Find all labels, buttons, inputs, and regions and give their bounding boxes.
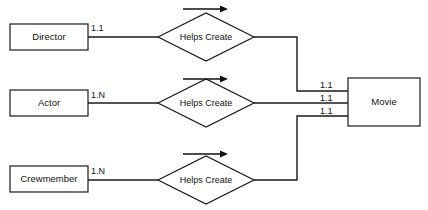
er-diagram-svg: Director Actor Crewmember Movie Helps Cr… [0, 0, 428, 210]
arrow-right-icon [220, 75, 228, 82]
entity-director-label: Director [32, 31, 65, 42]
cardinality-movie-top: 1.1 [320, 80, 333, 90]
cardinality-movie-middle: 1.1 [320, 93, 333, 103]
entity-actor-label: Actor [38, 97, 60, 108]
arrow-right-icon [220, 5, 228, 12]
connector-relationship-director-to-movie [254, 37, 348, 91]
relationship-helps-create-director[interactable]: Helps Create [158, 13, 254, 61]
entity-movie-label: Movie [371, 96, 396, 107]
entity-director[interactable]: Director [10, 24, 88, 50]
relationship-helps-create-director-label: Helps Create [180, 32, 233, 42]
relationship-helps-create-crewmember-label: Helps Create [180, 175, 233, 185]
entity-crewmember[interactable]: Crewmember [10, 166, 88, 192]
entity-crewmember-label: Crewmember [20, 173, 77, 184]
direction-arrow-director [183, 5, 228, 12]
arrow-right-icon [220, 150, 228, 157]
cardinality-actor-left: 1.N [91, 90, 105, 100]
relationship-helps-create-actor[interactable]: Helps Create [158, 79, 254, 127]
er-diagram-canvas: Director Actor Crewmember Movie Helps Cr… [0, 0, 428, 210]
cardinality-director-left: 1.1 [91, 23, 104, 33]
relationship-helps-create-crewmember[interactable]: Helps Create [158, 156, 254, 204]
cardinality-crewmember-left: 1.N [91, 166, 105, 176]
connector-relationship-crewmember-to-movie [254, 116, 348, 180]
relationship-helps-create-actor-label: Helps Create [180, 98, 233, 108]
entity-actor[interactable]: Actor [10, 90, 88, 116]
cardinality-movie-bottom: 1.1 [320, 106, 333, 116]
entity-movie[interactable]: Movie [348, 78, 420, 126]
